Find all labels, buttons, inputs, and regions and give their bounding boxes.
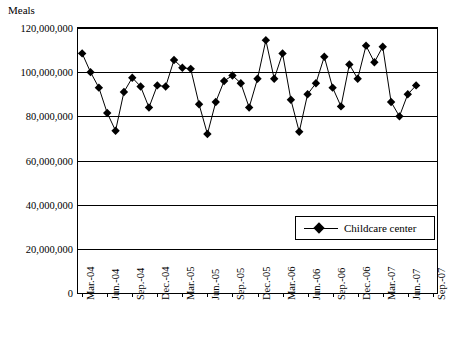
x-tick-mark: [132, 294, 133, 297]
gridline: [78, 116, 437, 117]
plot-area: [77, 27, 438, 294]
x-tick-mark: [408, 294, 409, 297]
x-tick-mark: [82, 294, 83, 297]
x-tick-mark: [258, 294, 259, 297]
x-tick-label: Dec.-05: [261, 266, 272, 300]
y-tick-label: 80,000,000: [26, 111, 73, 122]
x-tick-mark: [383, 294, 384, 297]
x-tick-mark: [433, 294, 434, 297]
x-tick-label: Mar.-05: [185, 266, 196, 300]
y-axis-tick-labels: 020,000,00040,000,00060,000,00080,000,00…: [0, 27, 73, 294]
y-tick-label: 20,000,000: [26, 243, 73, 254]
x-tick-label: Mar.-07: [386, 266, 397, 300]
x-tick-mark: [207, 294, 208, 297]
y-axis-title: Meals: [8, 4, 35, 16]
x-tick-mark: [358, 294, 359, 297]
x-tick-mark: [232, 294, 233, 297]
x-tick-label: Dec.-06: [361, 266, 372, 300]
y-tick-label: 120,000,000: [21, 23, 74, 34]
x-tick-label: Mar.-04: [85, 266, 96, 300]
gridline: [78, 72, 437, 73]
x-tick-label: Jun.-04: [110, 269, 121, 300]
y-tick-label: 0: [68, 288, 73, 299]
x-tick-label: Sep.-04: [135, 268, 146, 300]
x-tick-mark: [157, 294, 158, 297]
x-tick-mark: [182, 294, 183, 297]
x-tick-label: Sep.-06: [336, 268, 347, 300]
x-tick-label: Mar.-06: [286, 266, 297, 300]
gridline: [78, 161, 437, 162]
y-tick-label: 100,000,000: [21, 67, 74, 78]
legend-label-childcare-center: Childcare center: [344, 222, 416, 234]
gridline: [78, 28, 437, 29]
x-tick-mark: [107, 294, 108, 297]
legend: Childcare center: [295, 216, 435, 240]
x-tick-label: Sep.-05: [235, 268, 246, 300]
gridline: [78, 249, 437, 250]
x-tick-mark: [283, 294, 284, 297]
x-tick-label: Sep.-07: [436, 268, 447, 300]
y-tick-label: 40,000,000: [26, 199, 73, 210]
x-tick-mark: [308, 294, 309, 297]
legend-line-marker-icon: [304, 228, 338, 229]
x-axis-tick-labels: Mar.-04Jun.-04Sep.-04Dec.-04Mar.-05Jun.-…: [77, 297, 438, 361]
x-tick-mark: [333, 294, 334, 297]
y-tick-label: 60,000,000: [26, 155, 73, 166]
x-tick-label: Jun.-07: [411, 269, 422, 300]
x-tick-label: Dec.-04: [160, 266, 171, 300]
x-tick-label: Jun.-06: [311, 269, 322, 300]
chart-container: Meals 020,000,00040,000,00060,000,00080,…: [0, 0, 474, 361]
x-tick-label: Jun.-05: [210, 269, 221, 300]
gridline: [78, 205, 437, 206]
